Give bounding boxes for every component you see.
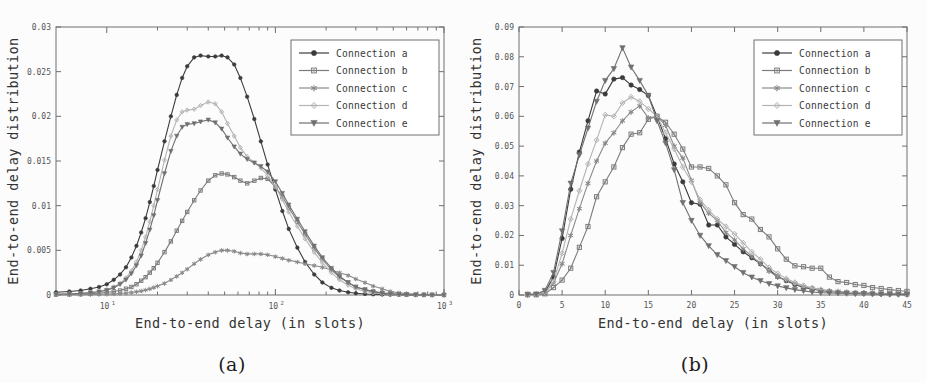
marker-diamond [577, 188, 582, 193]
series-line [528, 116, 907, 294]
marker-diamond [192, 107, 196, 111]
marker-triangle-down [577, 153, 582, 158]
marker-circle [681, 180, 685, 184]
marker-triangle-down [162, 172, 166, 176]
x-tick-label: 25 [730, 301, 740, 310]
marker-star [568, 233, 573, 238]
x-tick-label: 10 [600, 301, 610, 310]
marker-triangle-down [143, 241, 147, 245]
marker-circle [220, 54, 224, 58]
series-connection-e [54, 118, 446, 297]
marker-circle [354, 291, 358, 295]
series-connection-b [526, 114, 910, 297]
y-tick-label: 0.025 [27, 68, 51, 77]
figure-page: 00.0050.010.0150.020.0250.03101102103End… [0, 0, 927, 383]
marker-triangle-down [723, 259, 728, 264]
y-tick-label: 0.02 [495, 231, 514, 240]
marker-circle [206, 55, 210, 59]
marker-triangle-down [671, 168, 676, 173]
chart-b-plot-area: 00.010.020.030.040.050.060.070.080.09051… [468, 23, 912, 331]
marker-circle [239, 76, 243, 80]
marker-diamond [199, 103, 203, 107]
y-tick-label: 0.01 [495, 261, 514, 270]
y-tick-label: 0 [46, 291, 51, 300]
series-line [56, 120, 444, 295]
chart-a-svg: 00.0050.010.0150.020.0250.03101102103End… [0, 0, 464, 340]
marker-triangle-down [152, 214, 156, 218]
marker-triangle-down [715, 253, 720, 258]
caption-a: (a) [0, 353, 464, 375]
y-tick-label: 0.01 [32, 202, 51, 211]
marker-circle [245, 95, 249, 99]
y-tick-label: 0.09 [495, 23, 514, 32]
marker-star [586, 181, 591, 186]
marker-circle [603, 92, 607, 96]
x-tick-label: 10 [437, 302, 447, 311]
marker-circle [118, 273, 122, 277]
y-tick-label: 0.06 [495, 112, 514, 121]
x-tick-label: 0 [517, 301, 522, 310]
x-tick-exponent: 3 [449, 300, 452, 306]
y-tick-label: 0.03 [32, 23, 51, 32]
x-tick-label: 30 [773, 301, 783, 310]
marker-circle [139, 231, 143, 235]
marker-circle [213, 55, 217, 59]
marker-star [594, 158, 599, 163]
subfigure-b: 00.010.020.030.040.050.060.070.080.09051… [463, 0, 927, 383]
x-axis-title: End-to-end delay (in slots) [135, 315, 365, 331]
marker-circle [296, 246, 300, 250]
marker-circle [175, 93, 179, 97]
marker-diamond [594, 137, 599, 142]
marker-star [175, 274, 179, 278]
legend: Connection aConnection bConnection cConn… [291, 40, 439, 135]
marker-star [560, 261, 565, 266]
marker-diamond [629, 94, 634, 99]
marker-circle [253, 117, 257, 121]
marker-triangle-down [148, 228, 152, 232]
marker-circle [124, 266, 128, 270]
marker-circle [287, 227, 291, 231]
marker-triangle-down [568, 181, 573, 186]
legend-label: Connection c [336, 83, 408, 94]
marker-circle [338, 289, 342, 293]
marker-circle [774, 50, 779, 55]
marker-triangle-down [155, 199, 159, 203]
marker-triangle-down [175, 134, 179, 138]
x-tick-label: 5 [560, 301, 565, 310]
series-line [56, 174, 444, 295]
legend: Connection aConnection bConnection cConn… [754, 40, 902, 135]
marker-triangle-down [689, 218, 694, 223]
marker-circle [97, 285, 101, 289]
marker-circle [281, 209, 285, 213]
marker-circle [180, 76, 184, 80]
x-tick-exponent: 1 [112, 300, 115, 306]
marker-diamond [586, 161, 591, 166]
marker-diamond [163, 158, 167, 162]
legend-label: Connection a [336, 48, 408, 59]
y-tick-label: 0.05 [495, 142, 514, 151]
marker-star [169, 278, 173, 282]
x-tick-label: 10 [100, 302, 110, 311]
marker-diamond [206, 100, 210, 104]
caption-b: (b) [463, 353, 927, 375]
y-tick-label: 0 [509, 291, 514, 300]
marker-circle [706, 223, 710, 227]
marker-diamond [169, 134, 173, 138]
marker-circle [185, 65, 189, 69]
marker-circle [135, 244, 139, 248]
marker-triangle-down [740, 270, 745, 275]
marker-circle [330, 286, 334, 290]
marker-triangle-down [637, 78, 642, 83]
marker-triangle-down [559, 229, 564, 234]
marker-diamond [156, 187, 160, 191]
marker-circle [259, 140, 263, 144]
marker-circle [689, 200, 693, 204]
marker-diamond [185, 108, 189, 112]
y-tick-label: 0.08 [495, 53, 514, 62]
x-tick-label: 10 [268, 302, 278, 311]
marker-circle [163, 140, 167, 144]
marker-circle [152, 184, 156, 188]
legend-label: Connection d [336, 100, 408, 111]
marker-circle [156, 168, 160, 172]
y-axis-title: End-to-end delay distribution [468, 37, 484, 284]
